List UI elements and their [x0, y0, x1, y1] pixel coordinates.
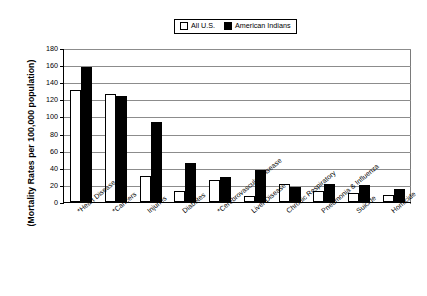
x-axis-labels: *Heart Disease*CancersInjuriesDiabetes*C…: [63, 204, 411, 294]
bar-all-us: [174, 191, 185, 202]
bar-american-indians: [81, 67, 92, 202]
chart-root: All U.S. American Indians (Mortality Rat…: [0, 0, 427, 296]
bar-group: [133, 49, 168, 202]
legend-label-american-indians: American Indians: [235, 22, 291, 29]
bar-all-us: [70, 90, 81, 202]
y-axis-tick-label: 20: [50, 182, 58, 189]
y-axis-title: (Mortality Rates per 100,000 population): [26, 18, 36, 268]
bar-american-indians: [151, 122, 162, 202]
bar-group: [376, 49, 411, 202]
y-axis-tick-label: 120: [46, 97, 58, 104]
bar-group: [168, 49, 203, 202]
bar-all-us: [209, 180, 220, 202]
y-axis-tick-label: 140: [46, 80, 58, 87]
y-axis-tick-label: 0: [54, 199, 58, 206]
legend-item-american-indians: American Indians: [224, 22, 291, 30]
bar-all-us: [140, 176, 151, 202]
bar-american-indians: [116, 96, 127, 202]
filled-square-icon: [224, 22, 232, 30]
y-axis-tick-label: 100: [46, 114, 58, 121]
y-axis-tick-label: 60: [50, 148, 58, 155]
chart-legend: All U.S. American Indians: [174, 19, 297, 34]
y-axis-tick-label: 40: [50, 165, 58, 172]
bar-group: [99, 49, 134, 202]
legend-item-all-us: All U.S.: [180, 22, 215, 30]
bar-all-us: [348, 193, 359, 202]
y-axis-tick-label: 180: [46, 45, 58, 52]
hollow-square-icon: [180, 22, 188, 30]
bar-group: [203, 49, 238, 202]
bar-all-us: [383, 195, 394, 202]
bar-all-us: [244, 196, 255, 202]
bar-group: [272, 49, 307, 202]
legend-label-all-us: All U.S.: [191, 22, 215, 29]
y-axis-tick-label: 80: [50, 131, 58, 138]
y-axis-tick-label: 160: [46, 63, 58, 70]
bar-group: [64, 49, 99, 202]
